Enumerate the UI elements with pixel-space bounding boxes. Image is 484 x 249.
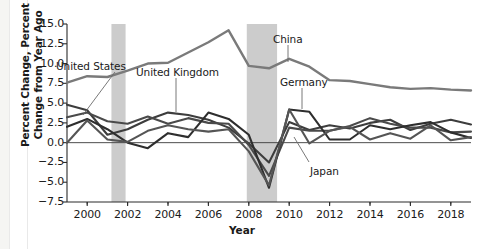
x-axis-tick-labels: 2000200220042006200820102012201420162018 [0, 0, 484, 249]
series-label-united-kingdom: United Kingdom [136, 66, 219, 78]
series-label-united-states: United States [56, 60, 126, 72]
series-label-japan: Japan [310, 165, 339, 177]
series-label-germany: Germany [280, 76, 328, 88]
chart-figure: Percent Change, Percent Change from Year… [0, 0, 484, 249]
series-label-china: China [273, 33, 303, 45]
x-tick-label: 2018 [424, 208, 478, 221]
x-axis-title: Year [0, 224, 484, 236]
